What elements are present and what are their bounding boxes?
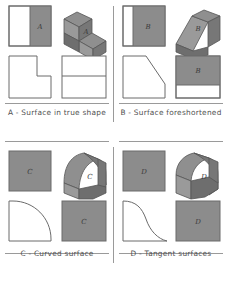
- panel-d: D D: [114, 141, 228, 282]
- panel-d-caption: D - Tangent surfaces: [114, 249, 228, 258]
- top-view-square-with-shaded-right: B: [123, 6, 165, 46]
- isometric-step-block: A: [64, 12, 106, 60]
- top-view-square-with-shaded-right-half: A: [9, 6, 51, 46]
- front-view-chamfered-square: [123, 56, 165, 98]
- panel-d-views: D D: [114, 141, 228, 251]
- front-view-tangent-curve: [123, 201, 167, 241]
- isometric-inclined-wedge: B: [176, 10, 220, 59]
- surface-label-a-top: A: [36, 23, 42, 31]
- surface-label-b-iso: B: [194, 25, 200, 33]
- surface-label-b-top: B: [144, 23, 150, 31]
- panel-b-views: B B: [114, 0, 228, 110]
- surface-label-b-side: B: [194, 67, 200, 75]
- front-view-l-shape: [9, 56, 51, 98]
- surface-label-c-top: C: [27, 168, 33, 176]
- panel-a-views: A A: [0, 0, 114, 110]
- surface-label-d-side: D: [194, 218, 201, 226]
- panel-c-views: C C: [0, 141, 114, 251]
- side-view-shaded-square-d: D: [176, 201, 220, 241]
- surface-label-d-top: D: [140, 168, 147, 176]
- panel-a-caption: A - Surface in true shape: [0, 108, 114, 117]
- surface-label-a-iso: A: [82, 28, 88, 36]
- top-view-shaded-square-c: C: [9, 151, 51, 191]
- top-view-shaded-square-d: D: [123, 151, 165, 191]
- panel-a: A A: [0, 0, 114, 141]
- isometric-tangent-curve-block: D: [176, 153, 218, 199]
- surface-label-c-iso: C: [87, 173, 93, 181]
- panel-b-caption: B - Surface foreshortened: [114, 108, 228, 117]
- surface-label-c-side: C: [81, 218, 87, 226]
- side-view-shaded-square-c: C: [62, 201, 106, 241]
- side-view-rectangle-shaded-upper: B: [176, 56, 220, 98]
- panel-b: B B: [114, 0, 228, 141]
- surface-label-d-iso: D: [200, 173, 207, 181]
- panel-c-caption: C - Curved surface: [0, 249, 114, 258]
- side-view-rectangle-split: [62, 56, 106, 98]
- panel-c: C C: [0, 141, 114, 282]
- front-view-quarter-arc: [9, 201, 51, 241]
- isometric-quarter-round-block: C: [64, 153, 106, 199]
- technical-drawing-figure: A A: [0, 0, 228, 283]
